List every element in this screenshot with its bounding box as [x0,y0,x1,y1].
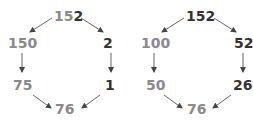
right-upper-right-node: 52 [234,36,253,50]
left-bottom-node: 76 [55,102,74,116]
left-top-node: 152 [54,9,83,23]
right-lower-left-node: 50 [146,78,165,92]
right-bottom-node: 76 [187,102,206,116]
left-lower-left-node: 75 [13,78,32,92]
left-lower-right-node: 1 [105,78,115,92]
right-lower-right-node: 26 [233,78,252,92]
left-upper-left-node: 150 [8,36,37,50]
right-top-node: 152 [186,9,215,23]
right-upper-left-node: 100 [141,36,170,50]
left-upper-right-node: 2 [103,36,113,50]
